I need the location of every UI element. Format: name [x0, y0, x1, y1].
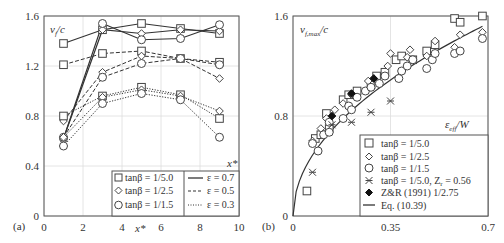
diamond-marker [216, 75, 224, 83]
circle-marker [423, 65, 431, 73]
legend-item-tan-5: tanβ = 1/5.0 [125, 172, 173, 183]
y-tick-label: 0.8 [274, 110, 288, 122]
panel-b-label: (b) [262, 220, 275, 233]
circle-marker [99, 20, 107, 28]
panel-b-ylabel: vf,max/c [300, 23, 328, 38]
circle-marker [99, 100, 107, 108]
panel-a-series [60, 20, 224, 151]
x-tick-label: 2 [80, 221, 86, 233]
square-marker [99, 50, 107, 58]
square-marker [456, 18, 464, 26]
diamond-marker [456, 31, 464, 39]
circle-marker [348, 106, 356, 114]
circle-marker [177, 35, 185, 43]
circle-marker [99, 73, 107, 81]
square-marker [303, 187, 311, 195]
square-marker [138, 20, 146, 28]
panel-a-legend: tanβ = 1/5.0 tanβ = 1/2.5 tanβ = 1/1.5 ε… [112, 171, 239, 216]
diamond-marker [216, 107, 224, 115]
circle-marker [177, 96, 185, 104]
x-tick-label: 10 [234, 221, 246, 233]
circle-marker [375, 80, 383, 88]
legend-item-tan-2-5: tanβ = 1/2.5 [381, 151, 429, 162]
x-tick-label: 0.7 [481, 221, 495, 233]
x-tick-label: 6 [158, 221, 164, 233]
legend-item-zr-1991: Z&R (1991) 1/2.75 [381, 187, 459, 199]
panel-a-xlabel-inner: x* [226, 157, 238, 169]
square-marker [216, 115, 224, 123]
x-tick-label: 8 [197, 221, 203, 233]
circle-marker [395, 75, 403, 83]
y-tick-label: 0 [283, 210, 289, 222]
x-tick-label: 0 [290, 221, 296, 233]
y-tick-label: 1.2 [25, 60, 39, 72]
legend-item-eps-03: ε = 0.3 [207, 199, 234, 210]
panel-b-legend: tanβ = 1/5.0 tanβ = 1/2.5 tanβ = 1/1.5 t… [360, 135, 488, 216]
circle-marker [325, 128, 333, 136]
panel-a-ylabel: vf/c [50, 23, 65, 38]
panel-a-label: (a) [13, 220, 26, 233]
legend-item-tan-2-5: tanβ = 1/2.5 [125, 185, 173, 196]
asterisk-marker [309, 169, 316, 176]
panel-a-chart: 00.40.81.21.60246810 vf/c x* x* (a) tanβ… [13, 10, 245, 234]
square-marker [60, 112, 68, 120]
panel-b-chart: 00.81.600.350.7 vf,max/c εeff/W (b) tanβ… [262, 10, 495, 233]
legend-item-tan-5: tanβ = 1/5.0 [381, 138, 429, 149]
circle-marker [409, 56, 417, 64]
square-marker [60, 40, 68, 48]
circle-marker [478, 35, 486, 43]
legend-item-eq-1039: Eq. (10.39) [381, 200, 426, 212]
circle-marker [216, 61, 224, 69]
circle-marker [216, 133, 224, 141]
circle-marker [431, 50, 439, 58]
circle-marker [177, 55, 185, 63]
panel-b-xlabel: εeff/W [445, 118, 469, 133]
asterisk-marker [348, 119, 355, 126]
circle-marker [367, 83, 375, 91]
figure-svg: 00.40.81.21.60246810 vf/c x* x* (a) tanβ… [0, 0, 504, 243]
square-marker [479, 12, 487, 20]
y-tick-label: 1.6 [274, 10, 288, 22]
y-tick-label: 0.4 [25, 160, 39, 172]
square-marker [60, 61, 68, 69]
circle-marker [60, 142, 68, 150]
circle-marker [314, 147, 322, 155]
panel-a-xlabel: x* [134, 222, 146, 234]
diamond-marker [406, 46, 414, 54]
circle-marker [339, 115, 347, 123]
circle-marker [138, 36, 146, 44]
legend-item-eps-07: ε = 0.7 [207, 172, 234, 183]
legend-item-eps-05: ε = 0.5 [207, 185, 234, 196]
legend-item-tan-1-5: tanβ = 1/1.5 [125, 199, 173, 210]
asterisk-marker [368, 109, 375, 116]
circle-marker [216, 21, 224, 29]
circle-marker [138, 60, 146, 68]
figure: 00.40.81.21.60246810 vf/c x* x* (a) tanβ… [0, 0, 504, 243]
circle-marker [309, 140, 317, 148]
circle-marker [381, 72, 389, 80]
y-tick-label: 0.8 [25, 110, 39, 122]
x-tick-label: 4 [119, 221, 125, 233]
x-tick-label: 0.35 [381, 221, 401, 233]
x-tick-label: 0 [41, 221, 47, 233]
circle-marker [138, 90, 146, 98]
circle-marker [456, 47, 464, 55]
y-tick-label: 1.6 [25, 10, 39, 22]
y-tick-label: 0 [34, 210, 40, 222]
legend-item-tan-1-5: tanβ = 1/1.5 [381, 163, 429, 174]
